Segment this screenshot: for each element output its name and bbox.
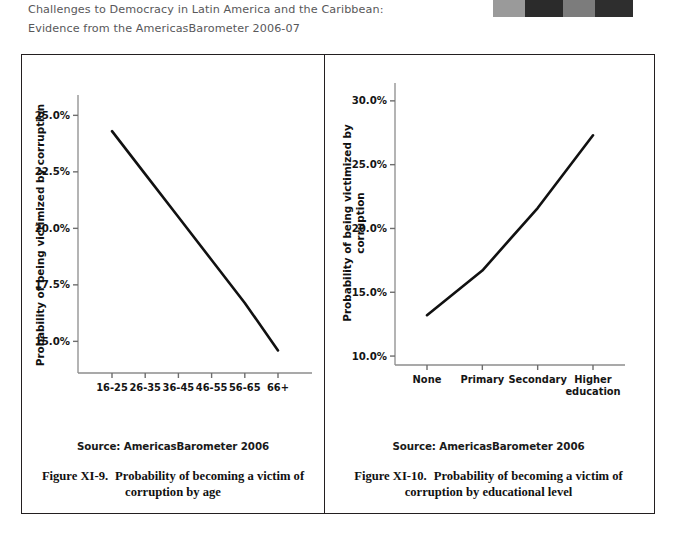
chart-xi-9-svg: 25.0%22.5%20.0%17.5%15.0%16-2526-3536-45… [22,55,325,400]
scan-block-1 [525,0,563,17]
xtick-label: 66+ [267,382,289,393]
chart-xi-10-svg: 30.0%25.0%20.0%15.0%10.0%NonePrimarySeco… [325,55,652,400]
xtick-label: Secondary [508,374,567,385]
y-axis-title: Probability of being victimized by [341,124,353,322]
scan-block-4 [633,0,660,17]
data-series-line [427,135,593,315]
figure-title-line2-xi-9: corruption by age [125,485,221,499]
y-axis-title: corruption [354,192,366,253]
ytick-label: 10.0% [352,351,387,362]
figure-title-line1-xi-9: Probability of becoming a victim of [115,469,304,483]
caption-xi-9: Source: AmericasBarometer 2006 Figure XI… [22,440,324,500]
xtick-label: 16-25 [96,382,128,393]
data-series-line [112,131,278,350]
xtick-label: 46-55 [196,382,228,393]
figure-title-line2-xi-10: corruption by educational level [405,485,573,499]
xtick-label: 26-35 [129,382,161,393]
xtick-label: 36-45 [163,382,195,393]
source-note-xi-10: Source: AmericasBarometer 2006 [325,440,652,452]
figure-number-xi-9: Figure XI-9. [42,469,108,483]
ytick-label: 15.0% [352,287,387,298]
ytick-label: 25.0% [352,159,387,170]
xtick-label: Primary [460,374,504,385]
figure-cell-xi-9: 25.0%22.5%20.0%17.5%15.0%16-2526-3536-45… [22,55,325,513]
xtick-label: 56-65 [229,382,261,393]
figure-caption-xi-10: Figure XI-10.Probability of becoming a v… [325,469,652,500]
chart-xi-10: 30.0%25.0%20.0%15.0%10.0%NonePrimarySeco… [325,55,652,400]
chart-xi-9: 25.0%22.5%20.0%17.5%15.0%16-2526-3536-45… [22,55,324,400]
xtick-label: None [413,374,442,385]
header-line-1: Challenges to Democracy in Latin America… [28,1,478,20]
xtick-label: education [565,386,620,397]
scan-block-0 [493,0,525,17]
figure-caption-xi-9: Figure XI-9.Probability of becoming a vi… [22,469,324,500]
scan-edge-strip [493,0,660,17]
source-note-xi-9: Source: AmericasBarometer 2006 [22,440,324,452]
figure-title-line1-xi-10: Probability of becoming a victim of [434,469,623,483]
ytick-label: 30.0% [352,95,387,106]
figure-number-xi-10: Figure XI-10. [354,469,427,483]
header-line-2: Evidence from the AmericasBarometer 2006… [28,20,478,39]
caption-xi-10: Source: AmericasBarometer 2006 Figure XI… [325,440,652,500]
xtick-label: Higher [574,374,611,385]
figure-table-frame: 25.0%22.5%20.0%17.5%15.0%16-2526-3536-45… [21,54,655,514]
y-axis-title: Probability of being victimized by corru… [34,104,46,366]
running-header: Challenges to Democracy in Latin America… [28,1,478,38]
scan-block-3 [595,0,633,17]
figure-cell-xi-10: 30.0%25.0%20.0%15.0%10.0%NonePrimarySeco… [325,55,652,513]
page-canvas: Challenges to Democracy in Latin America… [0,0,674,538]
scan-block-2 [563,0,595,17]
